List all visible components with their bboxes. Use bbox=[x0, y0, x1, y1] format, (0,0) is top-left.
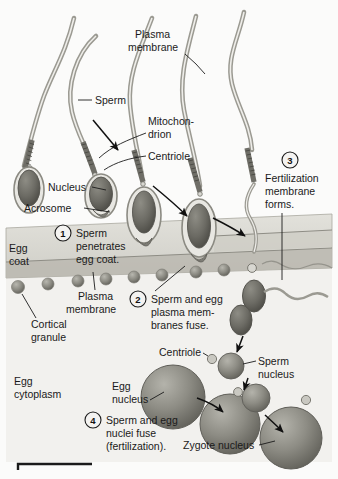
step-2-line3: branes fuse. bbox=[151, 319, 209, 331]
step-4-line3: (fertilization). bbox=[106, 440, 166, 452]
label-plasma-membrane-top-line1: Plasma bbox=[135, 28, 170, 40]
centriole-fusing bbox=[234, 388, 243, 397]
migrating-sperm-nucleus bbox=[230, 305, 252, 335]
label-egg-coat-line1: Egg bbox=[9, 242, 28, 254]
zygote-nucleus-sphere bbox=[260, 407, 322, 469]
centriole-sperm-3 bbox=[141, 182, 146, 187]
step-1-number: 1 bbox=[60, 228, 66, 239]
label-plasma-membrane-line1: Plasma bbox=[78, 290, 113, 302]
label-sperm-nucleus-line2: nucleus bbox=[258, 368, 294, 380]
label-egg-nucleus-line2: nucleus bbox=[112, 393, 148, 405]
sperm-nucleus-sphere bbox=[218, 353, 244, 379]
label-centriole-top: Centriole bbox=[148, 150, 190, 162]
step-1-line1: Sperm bbox=[76, 227, 107, 239]
step-1-line3: egg coat. bbox=[76, 253, 119, 265]
step-1-line2: penetrates bbox=[76, 240, 126, 252]
label-egg-coat-line2: coat bbox=[9, 255, 29, 267]
centriole-sperm-5 bbox=[248, 264, 257, 273]
step-4-line1: Sperm and egg bbox=[106, 414, 178, 426]
label-egg-nucleus-line1: Egg bbox=[112, 380, 131, 392]
label-mitochondrion-line2: drion bbox=[148, 128, 172, 140]
step-3-line3: forms. bbox=[265, 198, 294, 210]
label-centriole-lower: Centriole bbox=[159, 346, 201, 358]
label-plasma-membrane-top-line2: membrane bbox=[128, 41, 178, 53]
label-cortical-granule-line2: granule bbox=[31, 331, 66, 343]
centriole-sphere bbox=[207, 354, 216, 363]
step-2-line1: Sperm and egg bbox=[151, 293, 223, 305]
label-cortical-granule-line1: Cortical bbox=[31, 318, 67, 330]
label-egg-cytoplasm-line2: cytoplasm bbox=[14, 388, 62, 400]
label-zygote-nucleus: Zygote nucleus bbox=[183, 439, 254, 451]
step-2-line2: plasma mem- bbox=[151, 306, 215, 318]
label-egg-cytoplasm-line1: Egg bbox=[14, 375, 33, 387]
step-4-number: 4 bbox=[90, 415, 96, 426]
step-3-number: 3 bbox=[287, 155, 292, 166]
label-sperm-nucleus-line1: Sperm bbox=[258, 355, 289, 367]
step-3-line1: Fertilization bbox=[265, 172, 319, 184]
step-4-line2: nuclei fuse bbox=[106, 427, 156, 439]
sperm-nucleus-4 bbox=[188, 204, 211, 248]
label-mitochondrion-line1: Mitochon- bbox=[148, 115, 195, 127]
step-2-number: 2 bbox=[135, 294, 140, 305]
fertilization-diagram: Plasma membrane Sperm Mitochon- drion Ce… bbox=[0, 0, 338, 479]
label-sperm: Sperm bbox=[95, 94, 126, 106]
label-acrosome: Acrosome bbox=[24, 202, 71, 214]
sperm-nucleus-1 bbox=[18, 170, 40, 206]
sperm-nucleus-3 bbox=[133, 191, 156, 233]
label-nucleus: Nucleus bbox=[48, 181, 86, 193]
sperm-nucleus-2 bbox=[90, 177, 113, 211]
sperm-nucleus-fusing bbox=[242, 384, 270, 412]
step-3-line2: membrane bbox=[265, 185, 315, 197]
label-plasma-membrane-line2: membrane bbox=[66, 303, 116, 315]
centriole-sperm-4 bbox=[198, 192, 203, 197]
centriole-zygote bbox=[301, 395, 310, 404]
